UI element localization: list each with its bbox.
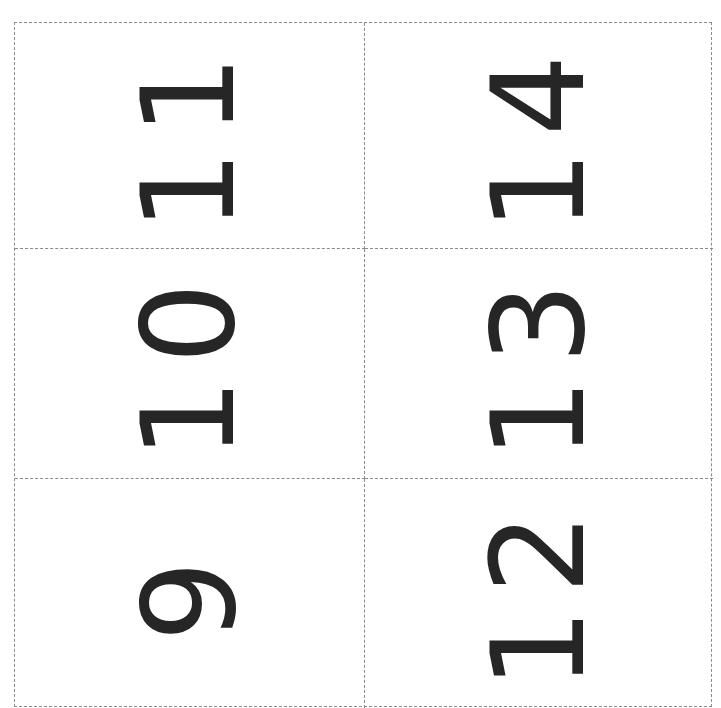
flashcard-sheet: 11 14 10 13 9 12	[14, 22, 712, 707]
card-number: 14	[475, 40, 603, 231]
card-number: 10	[126, 268, 254, 459]
number-card-13: 13	[365, 249, 713, 479]
card-number: 12	[475, 498, 603, 689]
card-number: 11	[126, 40, 254, 231]
number-card-11: 11	[15, 23, 365, 249]
number-card-9: 9	[15, 479, 365, 708]
number-card-14: 14	[365, 23, 713, 249]
number-card-10: 10	[15, 249, 365, 479]
number-card-12: 12	[365, 479, 713, 708]
card-number: 9	[126, 546, 254, 641]
card-number: 13	[475, 268, 603, 459]
